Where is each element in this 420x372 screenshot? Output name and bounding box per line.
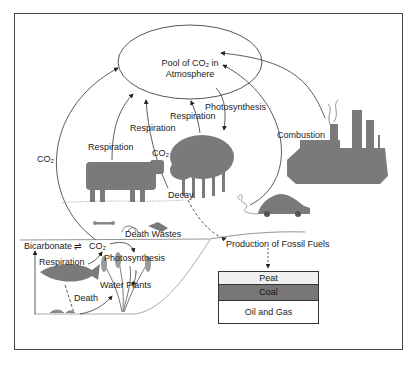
co2-water-label: CO₂ bbox=[89, 241, 106, 251]
death-wastes-label: Death Wastes bbox=[125, 229, 181, 239]
equilibrium-icon: ⇌ bbox=[74, 241, 82, 251]
respiration-cow-label: Respiration bbox=[88, 142, 134, 152]
death-dashed bbox=[65, 285, 74, 313]
photosynthesis-water-label: Photosynthesis bbox=[104, 253, 165, 263]
respiration-water-label: Respiration bbox=[39, 257, 85, 267]
water-plants-label: Water Plants bbox=[100, 280, 151, 290]
death-label: Death bbox=[74, 293, 98, 303]
car-silhouette bbox=[258, 194, 310, 214]
factory-smoke bbox=[328, 100, 338, 124]
car-exhaust bbox=[238, 195, 258, 214]
respiration-center-label: Respiration bbox=[130, 123, 176, 133]
atmosphere-pool-label: Pool of CO₂ in Atmosphere bbox=[140, 58, 240, 80]
sediment bbox=[50, 310, 75, 313]
cow-silhouette bbox=[86, 160, 164, 202]
ground-line bbox=[62, 200, 185, 203]
fossil-fuel-layers: Peat Coal Oil and Gas bbox=[218, 271, 319, 324]
combustion-label: Combustion bbox=[277, 130, 325, 140]
peat-layer: Peat bbox=[219, 272, 318, 285]
water-respiration-arrow bbox=[88, 252, 102, 264]
factory-silhouette bbox=[287, 110, 388, 184]
co2-left-label: CO₂ bbox=[37, 154, 54, 164]
bicarbonate-label: Bicarbonate bbox=[24, 241, 72, 251]
oil-gas-layer: Oil and Gas bbox=[219, 301, 318, 323]
diagram-graphics bbox=[0, 0, 420, 372]
co2-center-label: CO₂ bbox=[152, 148, 169, 158]
coal-layer: Coal bbox=[219, 285, 318, 301]
decay-to-fossil-dashed bbox=[188, 200, 226, 238]
tree-silhouette bbox=[170, 135, 234, 198]
photosynthesis-tree-label: Photosynthesis bbox=[205, 102, 266, 112]
water-photosynthesis-arrow bbox=[110, 242, 134, 252]
decay-label: Decay bbox=[168, 190, 194, 200]
respiration-tree-label: Respiration bbox=[170, 111, 216, 121]
bone-icon bbox=[93, 221, 115, 225]
production-fossil-fuels-label: Production of Fossil Fuels bbox=[226, 239, 330, 249]
co2-left-arrow bbox=[56, 68, 118, 240]
